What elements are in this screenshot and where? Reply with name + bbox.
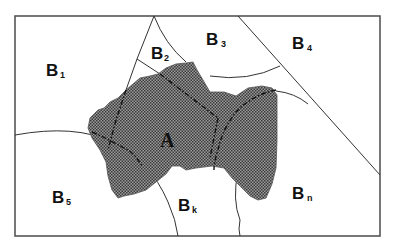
label-bk-letter: B [178,196,190,215]
label-b3-letter: B [206,30,218,49]
label-a: A [160,129,175,151]
label-b3-subscript: 3 [221,39,226,49]
label-b2-letter: B [151,44,163,63]
label-bn-letter: B [292,184,304,203]
label-bn-subscript: n [307,193,313,203]
label-b1-letter: B [46,61,58,80]
label-a-text: A [160,129,175,151]
label-b5-subscript: 5 [66,197,71,207]
diagram-canvas: A B 1 B 2 B 3 B 4 B 5 B k B n [0,0,394,248]
label-b1-subscript: 1 [60,70,65,80]
label-b2-subscript: 2 [164,53,169,63]
label-b4-subscript: 4 [307,43,312,53]
label-b5-letter: B [52,188,64,207]
label-b4-letter: B [292,34,304,53]
